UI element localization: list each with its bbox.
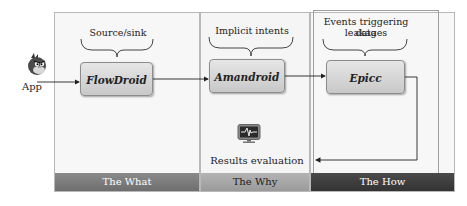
flowdroid-box: FlowDroid — [80, 62, 153, 96]
brace-source-sink — [81, 39, 153, 57]
annotation-events-line2: leakages — [316, 27, 416, 38]
angry-bird-icon — [25, 52, 49, 76]
monitor-waveform-icon — [237, 124, 261, 144]
epicc-box: Epicc — [326, 60, 405, 94]
app-label: App — [22, 81, 42, 92]
annotation-source-sink: Source/sink — [86, 27, 150, 38]
amandroid-box: Amandroid — [209, 59, 285, 93]
brace-implicit-intents — [209, 37, 293, 56]
brace-events — [323, 39, 407, 56]
annotation-implicit-intents: Implicit intents — [208, 25, 296, 36]
results-evaluation-label: Results evaluation — [207, 155, 307, 166]
